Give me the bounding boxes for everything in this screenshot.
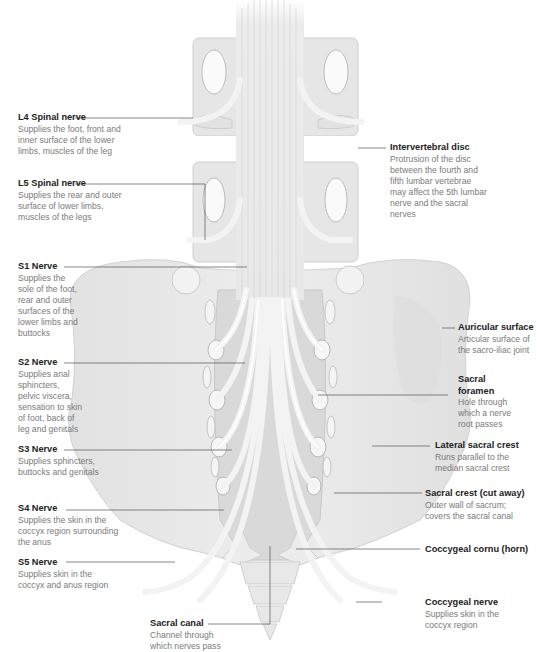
label-lateral-sacral-crest: Lateral sacral crest Runs parallel to th… — [435, 440, 535, 474]
label-description: Protrusion of the disc between the fourt… — [390, 154, 530, 220]
label-s3-nerve: S3 Nerve Supplies sphincters, buttocks a… — [18, 444, 138, 478]
label-description: Supplies skin in the coccyx region — [425, 609, 535, 631]
label-title: Coccygeal cornu (horn) — [425, 544, 537, 556]
label-description: Supplies the foot, front and inner surfa… — [18, 124, 158, 157]
label-title: Auricular surface — [458, 322, 537, 334]
label-s2-nerve: S2 Nerve Supplies anal sphincters, pelvi… — [18, 357, 118, 435]
label-title: Intervertebral disc — [390, 142, 530, 154]
label-description: Supplies the skin in the coccyx region s… — [18, 515, 158, 548]
label-s1-nerve: S1 Nerve Supplies the sole of the foot, … — [18, 261, 118, 339]
label-title: S5 Nerve — [18, 557, 158, 569]
label-description: Outer wall of sacrum; covers the sacral … — [425, 500, 535, 522]
label-title: Coccygeal nerve — [425, 597, 535, 609]
label-s5-nerve: S5 Nerve Supplies skin in the coccyx and… — [18, 557, 158, 591]
label-sacral-foramen: Sacral foramen Hole through which a nerv… — [458, 374, 534, 430]
label-description: Hole through which a nerve root passes — [458, 397, 534, 430]
label-title: Sacral canal — [150, 618, 250, 630]
label-title: S1 Nerve — [18, 261, 118, 273]
label-description: Supplies anal sphincters, pelvic viscera… — [18, 369, 118, 435]
label-l5-spinal-nerve: L5 Spinal nerve Supplies the rear and ou… — [18, 178, 158, 223]
label-s4-nerve: S4 Nerve Supplies the skin in the coccyx… — [18, 503, 158, 548]
label-description: Runs parallel to the median sacral crest — [435, 452, 535, 474]
label-title: S2 Nerve — [18, 357, 118, 369]
label-title: S3 Nerve — [18, 444, 138, 456]
label-title: S4 Nerve — [18, 503, 158, 515]
label-title: Sacral foramen — [458, 374, 534, 397]
label-title: L5 Spinal nerve — [18, 178, 158, 190]
label-coccygeal-nerve: Coccygeal nerve Supplies skin in the coc… — [425, 597, 535, 631]
label-description: Channel through which nerves pass — [150, 630, 250, 652]
label-description: Articular surface of the sacro-iliac joi… — [458, 334, 537, 356]
label-title: Sacral crest (cut away) — [425, 488, 535, 500]
label-description: Supplies the sole of the foot, rear and … — [18, 273, 118, 339]
label-description: Supplies sphincters, buttocks and genita… — [18, 456, 138, 478]
label-l4-spinal-nerve: L4 Spinal nerve Supplies the foot, front… — [18, 112, 158, 157]
label-sacral-canal: Sacral canal Channel through which nerve… — [150, 618, 250, 652]
label-title: Lateral sacral crest — [435, 440, 535, 452]
label-description: Supplies skin in the coccyx and anus reg… — [18, 569, 158, 591]
label-coccygeal-cornu: Coccygeal cornu (horn) — [425, 544, 537, 556]
label-description: Supplies the rear and outer surface of l… — [18, 190, 158, 223]
cauda-equina — [236, 0, 304, 300]
label-sacral-crest: Sacral crest (cut away) Outer wall of sa… — [425, 488, 535, 522]
label-intervertebral-disc: Intervertebral disc Protrusion of the di… — [390, 142, 530, 220]
label-title: L4 Spinal nerve — [18, 112, 158, 124]
label-auricular-surface: Auricular surface Articular surface of t… — [458, 322, 537, 356]
